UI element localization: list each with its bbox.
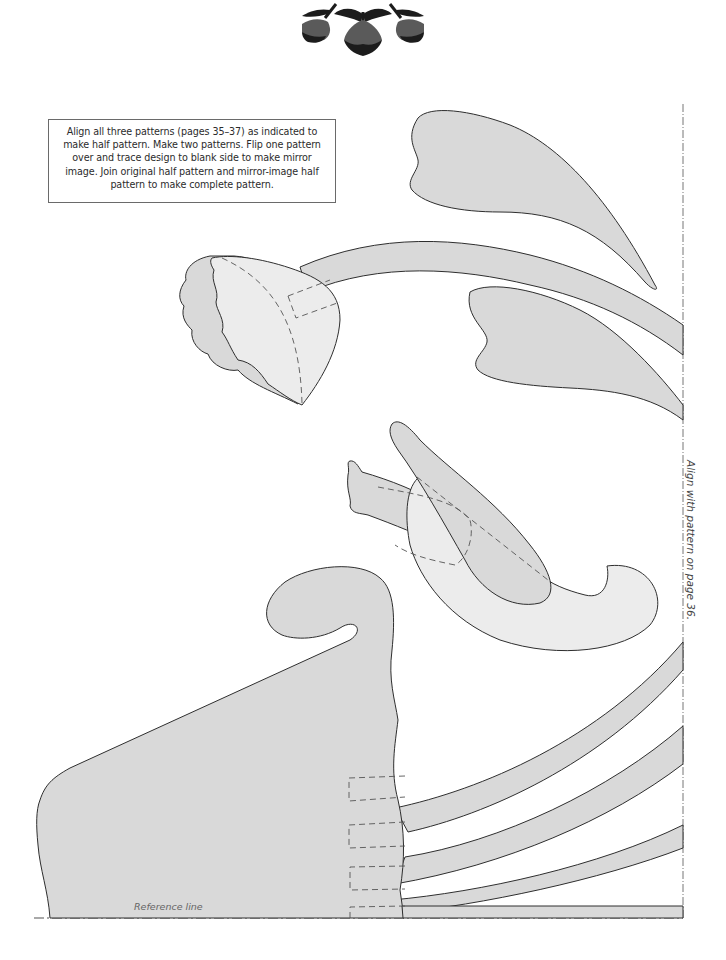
pattern-piece-vase bbox=[37, 567, 404, 918]
instructions-box: Align all three patterns (pages 35–37) a… bbox=[48, 119, 336, 203]
pattern-piece-curve-stem-1 bbox=[395, 642, 683, 832]
tulip-ornament-icon bbox=[302, 4, 424, 56]
alignment-note: Align with pattern on page 36. bbox=[683, 460, 699, 640]
instructions-text: Align all three patterns (pages 35–37) a… bbox=[63, 126, 321, 190]
reference-line-label: Reference line bbox=[134, 901, 203, 912]
pattern-piece-bottom-stem bbox=[402, 906, 683, 918]
alignment-label: Align with pattern on page 36. bbox=[685, 460, 697, 620]
pattern-page: Align all three patterns (pages 35–37) a… bbox=[0, 0, 726, 960]
